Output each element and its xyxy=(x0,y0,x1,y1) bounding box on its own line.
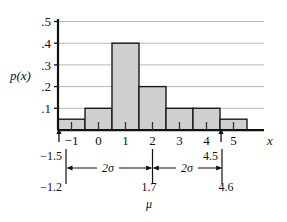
y-tick-label-0.5: .5 xyxy=(41,14,51,29)
annotation-mid-lower: 1.7 xyxy=(142,180,157,194)
span-arrow-left: 2σ xyxy=(67,161,153,175)
y-tick-label-0.2: .2 xyxy=(41,79,51,94)
bar-bin-3 xyxy=(112,43,139,130)
x-tick-label-0: 0 xyxy=(95,133,102,148)
x-tick-label-5: 5 xyxy=(230,133,237,148)
span-arrow-right-label: 2σ xyxy=(181,161,194,175)
span-arrow-left-head-start xyxy=(67,165,73,170)
y-tick-labels: .5 .4 .3 .2 .1 xyxy=(41,14,51,116)
annotation-right-lower: 4.6 xyxy=(219,180,234,194)
annotation-right-upper: 4.5 xyxy=(203,149,218,163)
x-axis-label: x xyxy=(266,133,273,148)
span-arrow-left-label: 2σ xyxy=(102,161,115,175)
mean-label: μ xyxy=(145,197,152,211)
span-arrow-right-head-start xyxy=(153,165,159,170)
x-tick-labels: −1 0 1 2 3 4 5 xyxy=(65,133,237,148)
histogram-svg: .5 .4 .3 .2 .1 p(x) −1 0 1 2 3 4 5 xyxy=(0,0,287,222)
annotation-left-lower: −1.2 xyxy=(40,180,62,194)
span-arrow-left-head-end xyxy=(146,165,152,170)
reference-drop-lines xyxy=(66,149,222,184)
y-tick-label-0.4: .4 xyxy=(41,36,51,51)
annotation-labels: −1.5 −1.2 1.7 4.5 4.6 μ xyxy=(40,149,233,211)
span-arrow-right-head-end xyxy=(216,165,222,170)
x-tick-label-3: 3 xyxy=(176,133,183,148)
x-tick-label-4: 4 xyxy=(203,133,210,148)
histogram-figure: .5 .4 .3 .2 .1 p(x) −1 0 1 2 3 4 5 xyxy=(0,0,287,222)
x-tick-label-1: 1 xyxy=(122,133,129,148)
y-tick-label-0.1: .1 xyxy=(41,101,51,116)
y-tick-label-0.3: .3 xyxy=(41,58,51,73)
y-axis-label: p(x) xyxy=(9,68,31,83)
x-tick-label-2: 2 xyxy=(149,133,156,148)
span-arrow-right: 2σ xyxy=(153,161,222,175)
annotation-left-upper: −1.5 xyxy=(40,149,62,163)
x-tick-label-n1: −1 xyxy=(65,133,79,148)
